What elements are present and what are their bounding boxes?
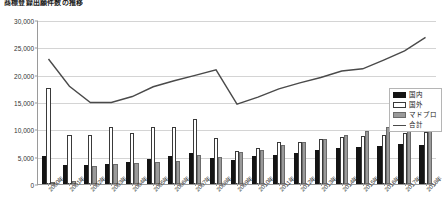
bar-group (268, 21, 289, 184)
x-axis-tick: 2004年 (121, 186, 142, 215)
bar-madopro (323, 139, 327, 184)
y-axis-tick-label: 15,000 (14, 100, 34, 107)
x-axis-tick: 2010年 (247, 186, 268, 215)
legend-label: マドプロ (409, 111, 437, 119)
x-axis-tick: 2013年 (310, 186, 331, 215)
bar-foreign (46, 88, 50, 184)
bar-group (80, 21, 101, 184)
bar-madopro (344, 135, 348, 184)
x-axis-tick: 2017年 (394, 186, 415, 215)
plot-area: 05,00010,00015,00020,00025,00030,000 (37, 21, 436, 185)
bar-group (185, 21, 206, 184)
y-axis-tick-label: 10,000 (14, 127, 34, 134)
y-axis-tick-label: 25,000 (14, 45, 34, 52)
x-axis-tick: 2006年 (163, 186, 184, 215)
bar-group (206, 21, 227, 184)
bar-madopro (386, 127, 390, 184)
x-axis-tick: 2001年 (58, 186, 79, 215)
bar-group (38, 21, 59, 184)
x-axis-tick: 2015年 (352, 186, 373, 215)
x-axis-tick: 2011年 (268, 186, 289, 215)
gray-bar-swatch (393, 112, 406, 118)
bar-group (143, 21, 164, 184)
x-axis-tick: 2014年 (331, 186, 352, 215)
bar-group (331, 21, 352, 184)
chart-legend: 国内国外マドプロ合計 (389, 88, 442, 132)
bar-group (101, 21, 122, 184)
x-axis-tick: 2009年 (226, 186, 247, 215)
y-axis-tick-label: 20,000 (14, 72, 34, 79)
x-axis-tick: 2000年 (37, 186, 58, 215)
x-axis-tick: 2005年 (142, 186, 163, 215)
bar-group (59, 21, 80, 184)
y-axis-tick-label: 0 (30, 182, 34, 189)
x-axis-tick: 2003年 (100, 186, 121, 215)
white-bar-swatch (393, 102, 406, 108)
bar-group (310, 21, 331, 184)
bar-group (122, 21, 143, 184)
x-axis-tick: 2018年 (415, 186, 436, 215)
chart-title: 商標登録出願件数の推移 (4, 0, 83, 6)
bar-group (352, 21, 373, 184)
legend-item-total[interactable]: 合計 (393, 121, 437, 129)
legend-label: 国外 (409, 101, 423, 109)
bar-madopro (365, 131, 369, 184)
x-axis-labels: 2000年2001年2002年2003年2004年2005年2006年2007年… (37, 186, 436, 215)
x-axis-tick: 2002年 (79, 186, 100, 215)
legend-item-madopro[interactable]: マドプロ (393, 111, 437, 119)
legend-item-foreign[interactable]: 国外 (393, 101, 437, 109)
bar-group (227, 21, 248, 184)
black-bar-swatch (393, 92, 406, 98)
x-axis-tick: 2012年 (289, 186, 310, 215)
legend-item-domestic[interactable]: 国内 (393, 91, 437, 99)
y-axis-tick-label: 5,000 (18, 154, 34, 161)
x-axis-tick: 2008年 (205, 186, 226, 215)
bar-foreign (67, 135, 71, 184)
bar-group (248, 21, 269, 184)
y-axis-tick-label: 30,000 (14, 18, 34, 25)
bar-group (164, 21, 185, 184)
x-axis-tick: 2007年 (184, 186, 205, 215)
x-axis-tick: 2016年 (373, 186, 394, 215)
chart-container: 商標登録出願件数の推移 05,00010,00015,00020,00025,0… (0, 0, 448, 215)
line-swatch (393, 125, 406, 126)
bar-series-layer (38, 21, 436, 184)
bar-group (289, 21, 310, 184)
legend-label: 合計 (409, 121, 423, 129)
legend-label: 国内 (409, 91, 423, 99)
